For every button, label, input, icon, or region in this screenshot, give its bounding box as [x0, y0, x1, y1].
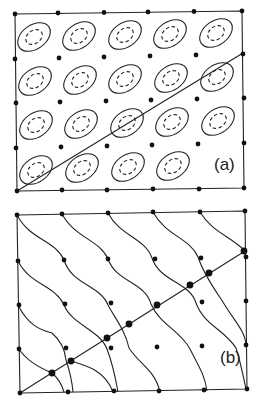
panel-b-label: (b) [220, 348, 241, 367]
panel-a-sites [13, 9, 247, 194]
wavy-lines [17, 212, 246, 392]
panel-a [12, 9, 246, 194]
figure: (a) [0, 0, 262, 404]
panel-b-border [17, 211, 247, 393]
panel-a-label: (a) [214, 155, 235, 174]
panel-a-border [15, 11, 244, 191]
panel-b [15, 209, 250, 396]
ellipse-grid [12, 13, 239, 190]
